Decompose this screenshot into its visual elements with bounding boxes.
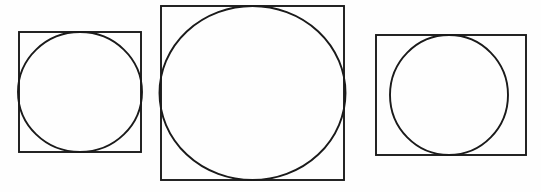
figure-1-circle <box>18 32 142 152</box>
figure-1-square <box>19 32 141 152</box>
figure-3-rectangle <box>376 35 526 155</box>
figure-2-group <box>160 6 346 180</box>
figure-1-group <box>18 32 142 152</box>
figure-3-circle <box>390 35 508 155</box>
figure-2-circle <box>160 6 346 180</box>
figure-3-group <box>376 35 526 155</box>
figure-canvas <box>0 0 541 192</box>
shapes-svg <box>0 0 541 192</box>
figure-2-square <box>161 6 344 180</box>
